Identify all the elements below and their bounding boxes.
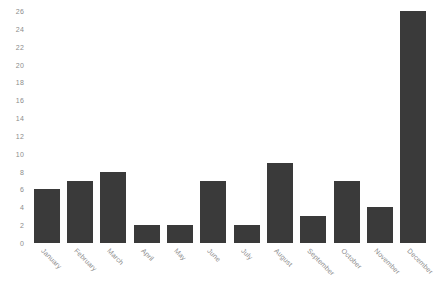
y-axis-tick-label: 2 xyxy=(20,222,24,229)
x-axis-tick-label: December xyxy=(406,247,434,275)
bar[interactable] xyxy=(400,11,426,243)
plot-area xyxy=(30,11,430,243)
x-axis-tick-label: March xyxy=(106,247,125,266)
bar[interactable] xyxy=(167,225,193,243)
x-axis-tick-label: June xyxy=(206,247,222,263)
bar-slot xyxy=(267,11,293,243)
x-axis-tick-label: January xyxy=(40,247,63,270)
bar[interactable] xyxy=(234,225,260,243)
bar[interactable] xyxy=(100,172,126,243)
bar-slot xyxy=(167,11,193,243)
y-axis-tick-label: 22 xyxy=(16,43,24,50)
y-axis-tick-label: 12 xyxy=(16,132,24,139)
x-axis-tick-label: October xyxy=(340,247,363,270)
bar[interactable] xyxy=(334,181,360,243)
bar[interactable] xyxy=(300,216,326,243)
bar[interactable] xyxy=(67,181,93,243)
bar-slot xyxy=(400,11,426,243)
y-axis: 02468101214161820222426 xyxy=(0,0,30,252)
x-axis-tick-label: May xyxy=(173,247,188,262)
bar-slot xyxy=(334,11,360,243)
x-axis-tick-label: February xyxy=(73,247,98,272)
bar-slot xyxy=(34,11,60,243)
y-axis-tick-label: 10 xyxy=(16,150,24,157)
y-axis-tick-label: 4 xyxy=(20,204,24,211)
bar[interactable] xyxy=(34,189,60,243)
y-axis-tick-label: 26 xyxy=(16,8,24,15)
y-axis-tick-label: 20 xyxy=(16,61,24,68)
x-axis-tick-label: November xyxy=(373,247,401,275)
bar-slot xyxy=(300,11,326,243)
bar-slot xyxy=(200,11,226,243)
bar[interactable] xyxy=(134,225,160,243)
x-axis-tick-label: August xyxy=(273,247,294,268)
y-axis-tick-label: 18 xyxy=(16,79,24,86)
bar[interactable] xyxy=(367,207,393,243)
y-axis-tick-label: 14 xyxy=(16,115,24,122)
bar[interactable] xyxy=(200,181,226,243)
bar-slot xyxy=(234,11,260,243)
bar[interactable] xyxy=(267,163,293,243)
y-axis-tick-label: 8 xyxy=(20,168,24,175)
x-axis-tick-label: September xyxy=(306,247,336,277)
y-axis-tick-label: 24 xyxy=(16,25,24,32)
bar-slot xyxy=(100,11,126,243)
y-axis-tick-label: 6 xyxy=(20,186,24,193)
x-axis-tick-label: April xyxy=(140,247,155,262)
y-axis-tick-label: 16 xyxy=(16,97,24,104)
x-axis-tick-label: July xyxy=(240,247,254,261)
bar-chart-figure: 02468101214161820222426 JanuaryFebruaryM… xyxy=(0,0,436,289)
y-axis-tick-label: 0 xyxy=(20,240,24,247)
bar-slot xyxy=(134,11,160,243)
bar-slot xyxy=(367,11,393,243)
bar-slot xyxy=(67,11,93,243)
